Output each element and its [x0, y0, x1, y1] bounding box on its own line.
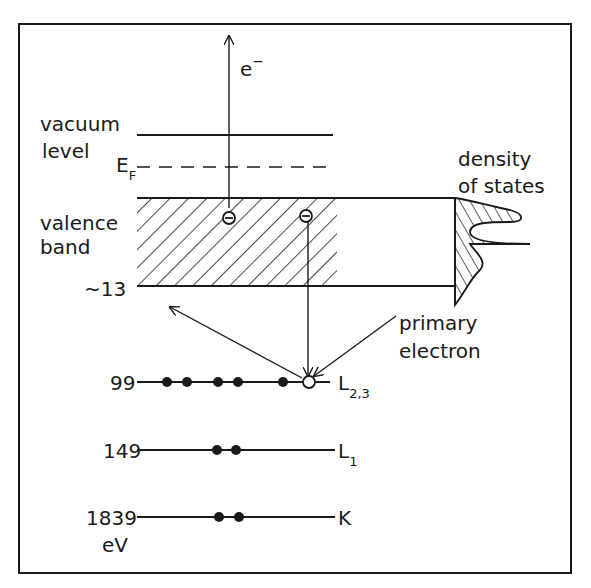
level-K-energy: 1839: [86, 506, 137, 530]
primary-label-line1: primary: [399, 311, 477, 335]
dos-label-line2: of states: [458, 174, 545, 198]
valence-electron-1: [223, 212, 235, 224]
vacuum-label-line2: level: [42, 139, 90, 163]
valence-label-line2: band: [40, 235, 90, 259]
primary-electron-arrow: [314, 316, 396, 376]
dos-label-line1: density: [458, 147, 531, 171]
valence-label-line1: valence: [40, 211, 118, 235]
fermi-label: EF: [116, 153, 136, 183]
level-L1-label: L1: [338, 439, 357, 469]
core-hole: [303, 376, 315, 388]
level-L23-label: L2,3: [338, 371, 370, 401]
density-of-states-curve: [455, 198, 530, 305]
emitted-electron-label: e−: [240, 53, 264, 81]
level-L23-energy: 99: [110, 371, 135, 395]
primary-label-line2: electron: [399, 339, 481, 363]
level-K-label: K: [338, 506, 352, 530]
valence-bottom-energy: ~13: [84, 277, 126, 301]
energy-unit-label: eV: [102, 533, 128, 557]
level-L1-energy: 149: [103, 439, 141, 463]
vacuum-label-line1: vacuum: [40, 112, 120, 136]
ejected-core-electron-arrow: [170, 307, 302, 378]
auger-diagram: e− vacuum level EF valence band ~13 dens…: [0, 0, 591, 588]
valence-electron-2: [300, 210, 312, 222]
